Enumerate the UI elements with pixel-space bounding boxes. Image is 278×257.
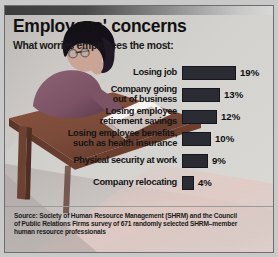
bar-value: 10% — [211, 133, 234, 144]
bar-chart: Losing job 19% Company going out of busi… — [19, 62, 267, 194]
bar-label: Company going out of business — [19, 85, 182, 104]
bar-physical-security-at-work — [182, 154, 208, 168]
chart-row: Company going out of business 13% — [19, 84, 267, 105]
bar-company-going-out-of-business — [182, 88, 220, 102]
bar-value: 19% — [236, 67, 259, 78]
source-line-1: Source: Society of Human Resource Manage… — [14, 212, 266, 220]
bar-label: Losing employee retirement savings — [19, 107, 182, 126]
bar-losing-employee-benefits — [182, 132, 211, 146]
bar-label-line2: retirement savings — [19, 117, 177, 127]
chart-row: Losing job 19% — [19, 62, 267, 83]
bar-label: Company relocating — [19, 178, 182, 188]
header-gradient-band — [5, 6, 273, 15]
bar-value: 12% — [217, 111, 240, 122]
bar-losing-job — [182, 66, 236, 80]
bar-value: 9% — [208, 155, 226, 166]
bar-value: 13% — [220, 89, 243, 100]
source-note: Source: Society of Human Resource Manage… — [14, 212, 266, 237]
source-line-3: human resource professionals — [14, 228, 266, 236]
source-divider — [5, 206, 273, 207]
chart-row: Physical security at work 9% — [19, 150, 267, 171]
chart-row: Losing employee retirement savings 12% — [19, 106, 267, 127]
bar-label: Losing employee benefits, such as health… — [19, 129, 182, 148]
figure-frame: Employees' concerns What worries employe… — [4, 5, 274, 253]
bar-company-relocating — [182, 176, 194, 190]
chart-row: Losing employee benefits, such as health… — [19, 128, 267, 149]
employees-concerns-infographic: Employees' concerns What worries employe… — [0, 0, 278, 257]
bar-label-line2: out of business — [19, 95, 177, 105]
source-line-2: of Public Relations Firms survey of 671 … — [14, 220, 266, 228]
heading-block: Employees' concerns What worries employe… — [13, 18, 187, 51]
bar-label-line1: Company relocating — [93, 177, 177, 187]
bar-label-line2: such as health insurance — [19, 139, 177, 149]
bar-value: 4% — [194, 177, 212, 188]
bar-label-line1: Physical security at work — [73, 155, 177, 165]
bar-label-line1: Losing job — [133, 67, 177, 77]
bar-label: Physical security at work — [19, 156, 182, 166]
bar-losing-employee-retirement-savings — [182, 110, 217, 124]
bar-label: Losing job — [19, 68, 182, 78]
chart-row: Company relocating 4% — [19, 172, 267, 193]
page-title: Employees' concerns — [13, 18, 187, 36]
page-subtitle: What worries employees the most: — [13, 40, 187, 51]
